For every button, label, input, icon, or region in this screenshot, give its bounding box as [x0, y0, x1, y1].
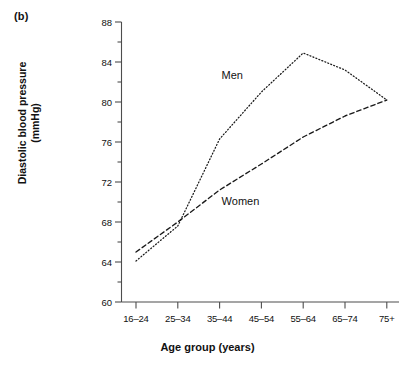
women-series-label: Women: [222, 195, 260, 207]
x-axis-tick-label: 16–24: [123, 313, 148, 324]
x-axis-tick-label: 25–34: [165, 313, 190, 324]
x-axis-tick-labels: 16–2425–3435–4445–5455–6465–7475+: [0, 313, 415, 329]
x-axis-tick-label: 35–44: [207, 313, 232, 324]
x-axis-tick-label: 65–74: [332, 313, 357, 324]
x-axis-tick-label: 45–54: [249, 313, 274, 324]
x-axis-title: Age group (years): [0, 341, 415, 353]
x-axis-tick-label: 55–64: [290, 313, 315, 324]
men-series-label: Men: [222, 69, 243, 81]
figure-panel-b: (b) Diastolic blood pressure (mmHg) 6064…: [0, 0, 415, 378]
x-axis-tick-label: 75+: [379, 313, 395, 324]
series-line-men: [136, 53, 387, 261]
